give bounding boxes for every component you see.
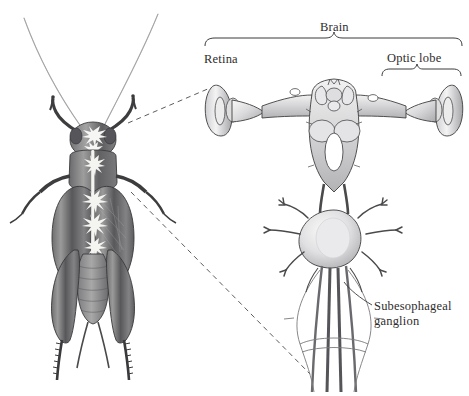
cricket-habitus [10,14,176,380]
brain-diagram [205,79,463,392]
brain-central-mass [306,79,362,214]
nerve-cords [284,266,384,392]
cricket-abdomen [77,254,109,324]
leader-lower [131,192,310,374]
subesophageal-ganglion [264,198,402,276]
label-subesophageal-line2: ganglion [374,314,452,329]
label-subesophageal-ganglion: Subesophageal ganglion [374,299,452,329]
retina-left [205,85,264,136]
label-retina: Retina [204,52,238,67]
label-optic-lobe: Optic lobe [387,51,441,66]
label-brain: Brain [320,20,349,35]
cerci [77,322,109,368]
retina-right [404,85,463,136]
leader-upper [128,88,210,123]
label-subesophageal-line1: Subesophageal [374,299,452,314]
antennae [24,14,158,128]
